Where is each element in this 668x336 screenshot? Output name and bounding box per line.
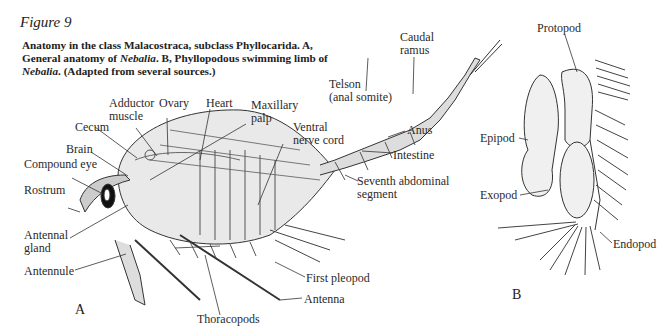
label-brain: Brain xyxy=(66,143,93,156)
label-caudal-ramus: Caudal ramus xyxy=(400,31,434,57)
limb-drawing xyxy=(498,60,630,275)
panel-b-letter: B xyxy=(512,287,521,303)
label-compound-eye: Compound eye xyxy=(24,158,97,171)
label-antennal-gland: Antennal gland xyxy=(24,229,68,255)
label-ventral-nerve-cord: Ventral nerve cord xyxy=(293,121,344,147)
label-protopod: Protopod xyxy=(537,22,581,35)
label-telson: Telson (anal somite) xyxy=(329,78,392,104)
label-anus: Anus xyxy=(407,124,432,137)
panel-a-letter: A xyxy=(75,302,85,318)
label-cecum: Cecum xyxy=(75,121,109,134)
label-intestine: Intestine xyxy=(393,149,434,162)
label-adductor-muscle: Adductor muscle xyxy=(109,97,154,123)
nebalia-drawing xyxy=(80,40,502,305)
label-first-pleopod: First pleopod xyxy=(306,272,370,285)
label-epipod: Epipod xyxy=(480,132,515,145)
label-antenna: Antenna xyxy=(304,293,345,306)
label-rostrum: Rostrum xyxy=(24,184,65,197)
label-antennule: Antennule xyxy=(24,265,74,278)
label-exopod: Exopod xyxy=(480,189,517,202)
illustration xyxy=(0,0,668,336)
label-endopod: Endopod xyxy=(613,238,656,251)
label-maxillary-palp: Maxillary palp xyxy=(251,99,298,125)
label-ovary: Ovary xyxy=(159,97,189,110)
label-thoracopods: Thoracopods xyxy=(197,313,260,326)
label-seventh-abdominal-segment: Seventh abdominal segment xyxy=(357,175,449,201)
label-heart: Heart xyxy=(206,97,233,110)
